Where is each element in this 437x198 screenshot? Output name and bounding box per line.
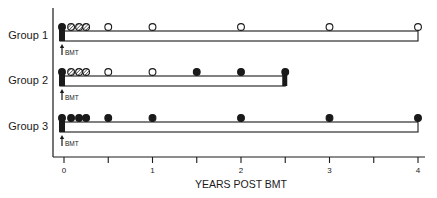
open-circle-marker [238,24,245,31]
x-tick-label: 3 [327,166,332,175]
bmt-label: BMT [65,140,79,147]
filled-circle-marker [105,115,112,122]
hatched-circle-marker [68,69,75,76]
x-tick-label: 1 [150,166,155,175]
open-circle-marker [326,24,333,31]
hatched-circle-marker [83,69,90,76]
filled-circle-marker [415,115,422,122]
group-row: Group 2BMT [8,69,288,101]
filled-circle-marker [238,69,245,76]
x-axis-label: YEARS POST BMT [195,178,288,190]
hatched-circle-marker [83,24,90,31]
filled-circle-marker [326,115,333,122]
filled-circle-marker [68,115,75,122]
filled-circle-marker [282,69,289,76]
filled-circle-marker [238,115,245,122]
hatched-circle-marker [68,24,75,31]
bmt-label: BMT [65,94,79,101]
filled-circle-marker [83,115,90,122]
group-row: Group 1BMT [8,24,421,56]
x-tick-label: 2 [239,166,244,175]
group-label: Group 2 [8,74,48,86]
filled-circle-marker [59,24,66,31]
open-circle-marker [415,24,422,31]
timeline-diagram: 01234 Group 1BMTGroup 2BMTGroup 3BMT YEA… [0,0,437,198]
group-row: Group 3BMT [8,115,421,147]
arrow-head-icon [60,89,64,93]
x-tick-label: 0 [62,166,67,175]
filled-circle-marker [149,115,156,122]
followup-bar [60,76,285,86]
arrow-head-icon [60,135,64,139]
hatched-circle-marker [76,69,83,76]
filled-circle-marker [59,69,66,76]
group-label: Group 1 [8,29,48,41]
filled-circle-marker [193,69,200,76]
open-circle-marker [105,69,112,76]
x-axis-ticks: 01234 [62,157,421,175]
filled-circle-marker [59,115,66,122]
open-circle-marker [149,24,156,31]
open-circle-marker [149,69,156,76]
x-tick-label: 4 [416,166,421,175]
arrow-head-icon [60,44,64,48]
filled-circle-marker [76,115,83,122]
followup-bar [60,122,418,132]
hatched-circle-marker [76,24,83,31]
groups: Group 1BMTGroup 2BMTGroup 3BMT [8,24,421,147]
followup-bar [60,31,418,41]
open-circle-marker [105,24,112,31]
group-label: Group 3 [8,120,48,132]
bmt-label: BMT [65,49,79,56]
